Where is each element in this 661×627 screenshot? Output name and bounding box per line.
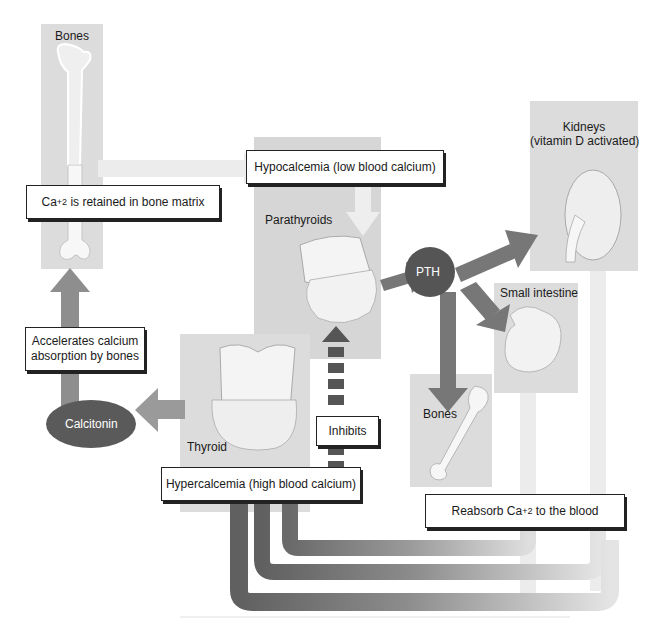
small-intestine-label: Small intestine xyxy=(500,286,578,300)
arrow-bones-to-hypocalcemia xyxy=(98,160,250,177)
kidneys-label-line2: (vitamin D activated) xyxy=(530,134,638,148)
bones-top-label: Bones xyxy=(55,29,89,43)
arrow-pth-to-kidneys xyxy=(455,230,538,282)
thyroid-label: Thyroid xyxy=(187,440,227,454)
box-ca-retained: Ca+2 is retained in bone matrix xyxy=(26,185,220,219)
kidneys-label: Kidneys (vitamin D activated) xyxy=(530,120,638,148)
panel-bones-top xyxy=(41,24,103,269)
calcium-regulation-diagram: Bones Parathyroids Kidneys (vitamin D ac… xyxy=(0,0,661,627)
intestine-return-path xyxy=(520,393,536,593)
box-hypocalcemia: Hypocalcemia (low blood calcium) xyxy=(246,150,444,184)
box-reabsorb: Reabsorb Ca+2 to the blood xyxy=(425,494,625,528)
box-hypercalcemia: Hypercalcemia (high blood calcium) xyxy=(161,467,361,501)
pth-label: PTH xyxy=(416,265,440,279)
retained-prefix: Ca xyxy=(41,195,56,210)
parathyroids-label: Parathyroids xyxy=(265,213,332,227)
accelerates-line1: Accelerates calcium xyxy=(32,334,139,349)
box-inhibits: Inhibits xyxy=(316,416,379,446)
reabsorb-suffix: to the blood xyxy=(532,504,598,519)
reabsorb-prefix: Reabsorb Ca xyxy=(451,504,522,519)
arrow-thyroid-to-calcitonin xyxy=(135,388,185,432)
arrow-pth-to-bones xyxy=(428,292,468,412)
accelerates-line2: absorption by bones xyxy=(31,349,139,364)
box-accelerates: Accelerates calcium absorption by bones xyxy=(25,327,145,371)
kidneys-label-line1: Kidneys xyxy=(530,120,638,134)
retained-suffix: is retained in bone matrix xyxy=(67,195,204,210)
bones-bottom-label: Bones xyxy=(423,407,457,421)
calcitonin-label: Calcitonin xyxy=(65,417,118,431)
